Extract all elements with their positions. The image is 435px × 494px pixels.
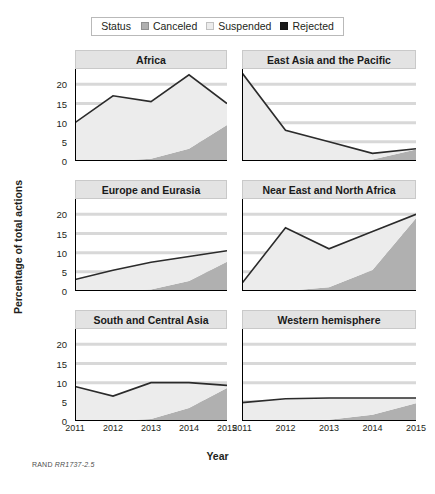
plot-area <box>75 329 227 421</box>
source-note: RAND RR1737-2.5 <box>32 461 95 468</box>
x-tick-label: 2015 <box>406 423 426 433</box>
panel-title: Western hemisphere <box>242 310 416 329</box>
x-tick-label: 2011 <box>65 423 84 433</box>
y-tick-label: 10 <box>56 117 67 128</box>
y-axis-title: Percentage of total actions <box>8 0 28 494</box>
y-tick-label: 10 <box>56 247 67 258</box>
panel-western-hemisphere: Western hemisphere0510152020112012201320… <box>228 310 424 440</box>
legend-item-canceled: Canceled <box>141 21 197 32</box>
plot-area <box>242 199 416 291</box>
panel-title: East Asia and the Pacific <box>242 50 416 69</box>
y-tick-label: 20 <box>56 79 67 90</box>
source-id: RR1737-2.5 <box>55 461 95 468</box>
plot-area <box>75 199 227 291</box>
y-tick-label: 15 <box>56 358 67 369</box>
legend-label-canceled: Canceled <box>153 21 197 32</box>
y-axis-ticks: 05101520 <box>32 69 71 161</box>
legend-swatch-suspended <box>206 22 214 30</box>
y-tick-label: 5 <box>62 396 67 407</box>
y-tick-label: 20 <box>56 339 67 350</box>
y-tick-label: 10 <box>56 377 67 388</box>
plot-area <box>75 69 227 161</box>
x-tick-label: 2014 <box>362 423 382 433</box>
x-axis-ticks: 20112012201320142015 <box>75 423 227 437</box>
x-axis-ticks: 20112012201320142015 <box>242 423 416 437</box>
y-axis-ticks: 05101520 <box>32 329 71 421</box>
panel-south-and-central-asia: South and Central Asia051015202011201220… <box>32 310 228 440</box>
x-tick-label: 2012 <box>103 423 123 433</box>
y-tick-label: 0 <box>62 156 67 167</box>
panel-africa: Africa0510152020112012201320142015 <box>32 50 228 180</box>
panel-title: Africa <box>75 50 227 69</box>
panel-title: Europe and Eurasia <box>75 180 227 199</box>
x-tick-label: 2012 <box>275 423 295 433</box>
x-tick-label: 2011 <box>232 423 251 433</box>
x-tick-label: 2014 <box>179 423 199 433</box>
legend-swatch-rejected <box>280 22 288 30</box>
small-multiples-grid: Africa0510152020112012201320142015East A… <box>32 50 424 440</box>
plot-area <box>242 69 416 161</box>
plot-area <box>242 329 416 421</box>
y-axis-ticks: 05101520 <box>32 199 71 291</box>
panel-title: South and Central Asia <box>75 310 227 329</box>
legend-label-rejected: Rejected <box>292 21 333 32</box>
legend-swatch-canceled <box>141 22 149 30</box>
legend-container: Status Canceled Suspended Rejected <box>0 17 435 36</box>
y-tick-label: 15 <box>56 98 67 109</box>
panel-near-east-and-north-africa: Near East and North Africa05101520201120… <box>228 180 424 310</box>
x-tick-label: 2013 <box>141 423 161 433</box>
y-tick-label: 15 <box>56 228 67 239</box>
legend-item-suspended: Suspended <box>206 21 271 32</box>
x-tick-label: 2013 <box>319 423 339 433</box>
panel-east-asia-and-the-pacific: East Asia and the Pacific051015202011201… <box>228 50 424 180</box>
legend: Status Canceled Suspended Rejected <box>91 17 344 36</box>
source-org: RAND <box>32 461 53 468</box>
y-tick-label: 0 <box>62 286 67 297</box>
legend-title: Status <box>101 21 132 32</box>
legend-label-suspended: Suspended <box>218 21 271 32</box>
y-tick-label: 5 <box>62 136 67 147</box>
y-tick-label: 20 <box>56 209 67 220</box>
panel-europe-and-eurasia: Europe and Eurasia0510152020112012201320… <box>32 180 228 310</box>
y-tick-label: 5 <box>62 266 67 277</box>
panel-title: Near East and North Africa <box>242 180 416 199</box>
legend-item-rejected: Rejected <box>280 21 333 32</box>
